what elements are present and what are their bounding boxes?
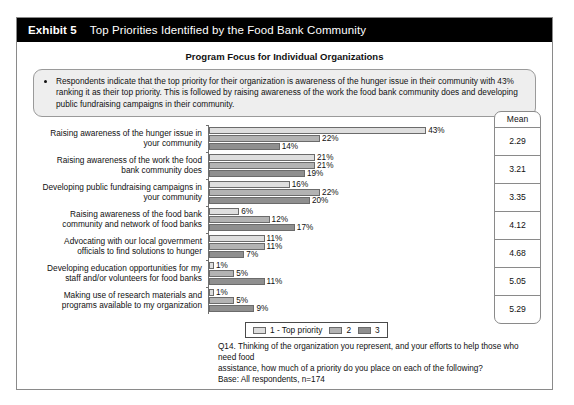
bar-value-label: 17% bbox=[297, 223, 313, 232]
bar-line: 22% bbox=[209, 189, 470, 196]
bar-group: 1%5%9% bbox=[208, 287, 470, 314]
bar-series-1 bbox=[209, 208, 239, 215]
chart-legend: 1 - Top priority 2 3 bbox=[245, 322, 388, 338]
bar-series-2 bbox=[209, 162, 315, 169]
bar-line: 1% bbox=[209, 289, 470, 296]
legend-item: 1 - Top priority bbox=[253, 325, 322, 335]
chart-row: Making use of research materials andprog… bbox=[30, 287, 470, 314]
bar-line: 16% bbox=[209, 181, 470, 188]
bar-series-1 bbox=[209, 127, 426, 134]
mean-value-cell: 5.05 bbox=[495, 268, 540, 296]
callout-bullet: Respondents indicate that the top priori… bbox=[56, 76, 525, 110]
bar-group: 21%21%19% bbox=[208, 152, 470, 179]
chart-title: Program Focus for Individual Organizatio… bbox=[17, 51, 552, 62]
category-label: Raising awareness of the work the foodba… bbox=[30, 152, 208, 179]
bar-line: 11% bbox=[209, 243, 470, 250]
bar-value-label: 16% bbox=[292, 180, 308, 189]
bar-line: 43% bbox=[209, 127, 470, 134]
bar-line: 21% bbox=[209, 162, 470, 169]
bar-value-label: 5% bbox=[236, 296, 248, 305]
mean-value-cell: 5.29 bbox=[495, 296, 540, 323]
chart-area: Raising awareness of the hunger issue in… bbox=[17, 125, 552, 330]
mean-column-header: Mean bbox=[495, 112, 540, 128]
bar-value-label: 12% bbox=[272, 215, 288, 224]
footnote: Q14. Thinking of the organization you re… bbox=[218, 341, 538, 385]
bar-chart-plot: Raising awareness of the hunger issue in… bbox=[30, 125, 470, 314]
bar-line: 20% bbox=[209, 197, 470, 204]
bar-value-label: 20% bbox=[312, 196, 328, 205]
bar-group: 11%11%7% bbox=[208, 233, 470, 260]
bar-value-label: 14% bbox=[282, 142, 298, 151]
bar-series-1 bbox=[209, 289, 214, 296]
mean-value-cell: 3.35 bbox=[495, 184, 540, 212]
bar-value-label: 9% bbox=[256, 304, 268, 313]
bar-series-3 bbox=[209, 251, 244, 258]
category-label: Developing education opportunities for m… bbox=[30, 260, 208, 287]
bar-group: 16%22%20% bbox=[208, 179, 470, 206]
exhibit-title-bar: Exhibit 5 Top Priorities Identified by t… bbox=[17, 18, 552, 42]
callout-bullet-list: Respondents indicate that the top priori… bbox=[42, 76, 525, 110]
bar-value-label: 5% bbox=[236, 269, 248, 278]
bar-series-2 bbox=[209, 216, 270, 223]
bar-line: 19% bbox=[209, 170, 470, 177]
bar-series-2 bbox=[209, 243, 265, 250]
bar-line: 5% bbox=[209, 297, 470, 304]
legend-label-series-3: 3 bbox=[375, 325, 380, 335]
mean-value-cell: 3.21 bbox=[495, 156, 540, 184]
bar-series-2 bbox=[209, 135, 320, 142]
mean-value-cell: 4.68 bbox=[495, 240, 540, 268]
chart-row: Raising awareness of the hunger issue in… bbox=[30, 125, 470, 152]
bar-value-label: 19% bbox=[307, 169, 323, 178]
chart-row: Raising awareness of the food bankcommun… bbox=[30, 206, 470, 233]
chart-row: Advocating with our local governmentoffi… bbox=[30, 233, 470, 260]
legend-label-series-1: 1 - Top priority bbox=[270, 325, 322, 335]
bar-value-label: 7% bbox=[246, 250, 258, 259]
bar-series-2 bbox=[209, 297, 234, 304]
footnote-line: Q14. Thinking of the organization you re… bbox=[218, 341, 538, 363]
category-label: Developing public fundraising campaigns … bbox=[30, 179, 208, 206]
bar-series-1 bbox=[209, 154, 315, 161]
bar-series-3 bbox=[209, 170, 305, 177]
bar-line: 21% bbox=[209, 154, 470, 161]
bar-line: 1% bbox=[209, 262, 470, 269]
legend-swatch-series-2 bbox=[329, 327, 342, 334]
chart-row: Developing education opportunities for m… bbox=[30, 260, 470, 287]
bar-series-3 bbox=[209, 197, 310, 204]
exhibit-number: Exhibit 5 bbox=[28, 24, 77, 36]
legend-item: 3 bbox=[358, 325, 380, 335]
exhibit-page: Exhibit 5 Top Priorities Identified by t… bbox=[0, 0, 574, 405]
bar-value-label: 1% bbox=[216, 288, 228, 297]
bar-series-3 bbox=[209, 305, 254, 312]
bar-line: 11% bbox=[209, 235, 470, 242]
bar-series-1 bbox=[209, 262, 214, 269]
bar-group: 6%12%17% bbox=[208, 206, 470, 233]
category-label: Raising awareness of the hunger issue in… bbox=[30, 125, 208, 152]
bar-value-label: 11% bbox=[267, 277, 283, 286]
footnote-line: assistance, how much of a priority do yo… bbox=[218, 363, 538, 374]
category-label: Advocating with our local governmentoffi… bbox=[30, 233, 208, 260]
bar-series-1 bbox=[209, 181, 290, 188]
mean-value-cell: 4.12 bbox=[495, 212, 540, 240]
bar-value-label: 43% bbox=[428, 126, 444, 135]
bar-series-3 bbox=[209, 278, 265, 285]
bar-line: 14% bbox=[209, 143, 470, 150]
mean-column-table: Mean2.293.213.354.124.685.055.29 bbox=[494, 111, 541, 324]
bar-series-3 bbox=[209, 143, 280, 150]
chart-row: Developing public fundraising campaigns … bbox=[30, 179, 470, 206]
bar-line: 9% bbox=[209, 305, 470, 312]
bar-value-label: 1% bbox=[216, 261, 228, 270]
exhibit-body: Program Focus for Individual Organizatio… bbox=[17, 51, 552, 399]
exhibit-frame: Exhibit 5 Top Priorities Identified by t… bbox=[16, 17, 553, 390]
category-label: Raising awareness of the food bankcommun… bbox=[30, 206, 208, 233]
bar-line: 12% bbox=[209, 216, 470, 223]
bar-line: 17% bbox=[209, 224, 470, 231]
mean-value-cell: 2.29 bbox=[495, 128, 540, 156]
bar-value-label: 11% bbox=[267, 242, 283, 251]
exhibit-title: Top Priorities Identified by the Food Ba… bbox=[90, 24, 366, 36]
bar-series-3 bbox=[209, 224, 295, 231]
bar-value-label: 6% bbox=[241, 207, 253, 216]
chart-row: Raising awareness of the work the foodba… bbox=[30, 152, 470, 179]
legend-label-series-2: 2 bbox=[346, 325, 351, 335]
category-label: Making use of research materials andprog… bbox=[30, 287, 208, 314]
bar-line: 7% bbox=[209, 251, 470, 258]
